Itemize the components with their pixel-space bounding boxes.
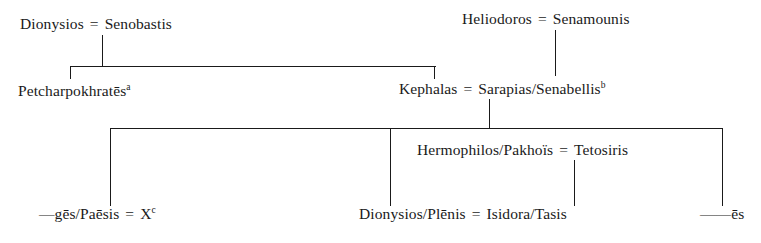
person-name-senobastis: Senobastis bbox=[105, 15, 172, 32]
footnote-marker-b: b bbox=[601, 80, 606, 90]
genealogy-stemma-diagram: Dionysios=Senobastis Heliodoros=Senamoun… bbox=[0, 0, 761, 243]
person-name-es: ēs bbox=[731, 205, 744, 222]
marriage-symbol: = bbox=[553, 142, 574, 158]
lacuna-dash-right: —— bbox=[700, 206, 731, 222]
marriage-symbol: = bbox=[84, 16, 105, 32]
person-name-hermophilos-pakhois: Hermophilos/Pakhoïs bbox=[417, 141, 553, 158]
person-name-petcharpokhrates: Petcharpokhratēs bbox=[18, 82, 126, 99]
marriage-symbol: = bbox=[532, 11, 553, 27]
descent-line-heliodoros-senamounis bbox=[555, 30, 556, 76]
person-petcharpokhrates: Petcharpokhratēsa bbox=[18, 83, 131, 99]
marriage-symbol: = bbox=[457, 81, 478, 97]
union-heliodoros-senamounis: Heliodoros=Senamounis bbox=[462, 11, 630, 27]
sibling-bar-generation-2 bbox=[70, 66, 436, 67]
person-name-x: X bbox=[140, 205, 151, 222]
marriage-symbol: = bbox=[119, 206, 140, 222]
footnote-marker-c: c bbox=[151, 205, 155, 215]
person-name-sarapias-senabellis: Sarapias/Senabellis bbox=[478, 80, 600, 97]
person-name-heliodoros: Heliodoros bbox=[462, 10, 532, 27]
union-dionysios-plenis-isidora: Dionysios/Plēnis=Isidora/Tasis bbox=[359, 206, 567, 222]
lacuna-dash-left: — bbox=[39, 206, 55, 222]
union-dionysios-senobastis: Dionysios=Senobastis bbox=[20, 16, 172, 32]
descent-line-hermophilos-tetosiris bbox=[574, 160, 575, 206]
descent-line-hermophilos bbox=[390, 128, 391, 206]
person-name-tetosiris: Tetosiris bbox=[574, 141, 628, 158]
sibling-bar-generation-3 bbox=[110, 128, 723, 129]
footnote-marker-a: a bbox=[126, 82, 130, 92]
union-gesaesis-x: —gēs/Paēsis=Xc bbox=[39, 206, 156, 222]
person-name-gesaesis: gēs/Paēsis bbox=[55, 205, 120, 222]
person-es: ——ēs bbox=[700, 206, 744, 222]
union-kephalas-sarapias: Kephalas=Sarapias/Senabellisb bbox=[399, 81, 606, 97]
person-name-kephalas: Kephalas bbox=[399, 80, 457, 97]
person-name-isidora-tasis: Isidora/Tasis bbox=[487, 205, 567, 222]
descent-line-petcharpokhrates bbox=[70, 66, 71, 79]
descent-line-kephalas-sarapias bbox=[489, 99, 490, 129]
descent-line-gesaesis bbox=[110, 128, 111, 206]
person-name-senamounis: Senamounis bbox=[553, 10, 630, 27]
descent-line-es bbox=[722, 128, 723, 206]
descent-line-dionysios-senobastis bbox=[102, 35, 103, 67]
person-name-dionysios-plenis: Dionysios/Plēnis bbox=[359, 205, 466, 222]
descent-line-kephalas bbox=[434, 66, 435, 79]
union-hermophilos-tetosiris: Hermophilos/Pakhoïs=Tetosiris bbox=[417, 142, 628, 158]
person-name-dionysios: Dionysios bbox=[20, 15, 84, 32]
marriage-symbol: = bbox=[466, 206, 487, 222]
